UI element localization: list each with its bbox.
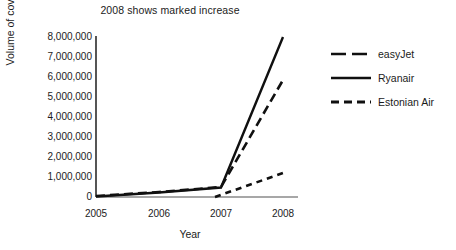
legend-item-ryanair[interactable]: Ryanair	[331, 66, 456, 90]
short-dash-swatch	[331, 96, 371, 108]
chart-legend: easyJet Ryanair Estonian Air	[331, 42, 456, 114]
legend-label-estonian-air: Estonian Air	[378, 96, 434, 108]
series-line-easyjet	[96, 80, 283, 196]
plot-area	[0, 0, 456, 250]
legend-label-easyjet: easyJet	[378, 48, 414, 60]
long-dash-swatch	[331, 48, 371, 60]
line-chart-figure: 2008 shows marked increase Volume of cov…	[0, 0, 456, 250]
series-line-ryanair	[96, 37, 283, 197]
legend-label-ryanair: Ryanair	[378, 72, 414, 84]
solid-line-swatch	[331, 72, 371, 84]
legend-item-easyjet[interactable]: easyJet	[331, 42, 456, 66]
legend-item-estonian-air[interactable]: Estonian Air	[331, 90, 456, 114]
